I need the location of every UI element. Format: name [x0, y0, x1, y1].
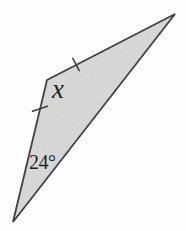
- geometry-figure-canvas: x 24°: [0, 0, 186, 231]
- apex-angle-label: x: [51, 74, 64, 104]
- triangle-figure: x 24°: [0, 0, 186, 231]
- bottom-angle-label: 24°: [29, 151, 56, 173]
